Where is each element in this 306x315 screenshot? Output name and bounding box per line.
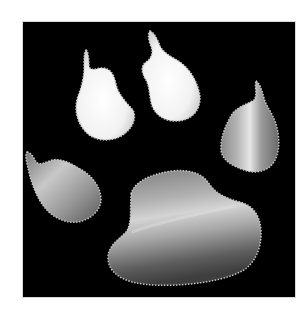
main-pad bbox=[108, 171, 261, 286]
toe-left-outer bbox=[26, 152, 101, 222]
toe-right-outer bbox=[221, 81, 279, 172]
toe-right-inner bbox=[142, 31, 200, 121]
toe-left-inner bbox=[76, 50, 135, 140]
caption-strip bbox=[0, 300, 306, 315]
paw-print-illustration bbox=[0, 0, 306, 315]
